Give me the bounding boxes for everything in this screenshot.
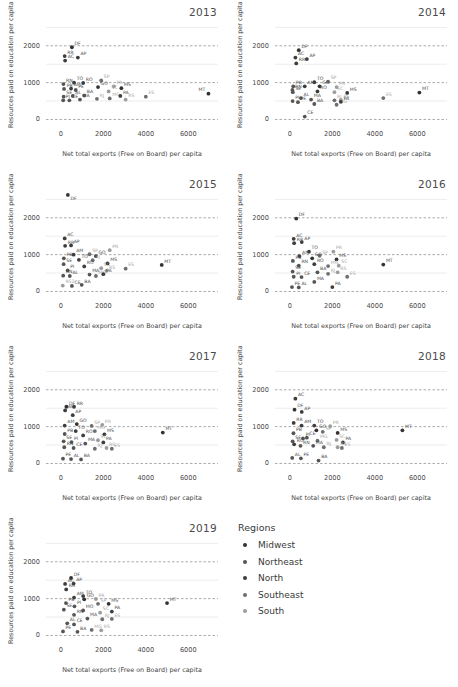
- data-point[interactable]: [99, 628, 103, 632]
- data-point[interactable]: [71, 413, 75, 417]
- data-point[interactable]: [96, 602, 100, 606]
- data-point[interactable]: [90, 628, 94, 632]
- data-point[interactable]: [321, 430, 325, 434]
- data-point[interactable]: [290, 285, 294, 289]
- data-point[interactable]: [68, 274, 72, 278]
- data-point[interactable]: [297, 286, 301, 290]
- data-point[interactable]: [291, 99, 295, 103]
- legend-item-south[interactable]: South: [236, 606, 416, 616]
- data-point[interactable]: [62, 445, 66, 449]
- data-point[interactable]: [80, 283, 84, 287]
- data-point[interactable]: [63, 237, 67, 241]
- data-point[interactable]: [303, 115, 307, 119]
- data-point[interactable]: [110, 610, 114, 614]
- data-point[interactable]: [292, 421, 296, 425]
- data-point[interactable]: [335, 438, 339, 442]
- data-point[interactable]: [63, 59, 67, 63]
- data-point[interactable]: [124, 98, 128, 102]
- data-point[interactable]: [74, 429, 78, 433]
- data-point[interactable]: [345, 275, 349, 279]
- data-point[interactable]: [417, 91, 421, 95]
- data-point[interactable]: [294, 217, 298, 221]
- data-point[interactable]: [291, 259, 295, 263]
- data-point[interactable]: [293, 408, 297, 412]
- data-point[interactable]: [401, 428, 405, 432]
- data-point[interactable]: [98, 611, 102, 615]
- data-point[interactable]: [292, 442, 296, 446]
- data-point[interactable]: [61, 274, 65, 278]
- data-point[interactable]: [118, 94, 122, 98]
- data-point[interactable]: [293, 56, 297, 60]
- data-point[interactable]: [72, 623, 76, 627]
- data-point[interactable]: [322, 445, 326, 449]
- data-point[interactable]: [100, 617, 104, 621]
- legend-item-northeast[interactable]: Northeast: [236, 557, 416, 567]
- data-point[interactable]: [335, 103, 339, 107]
- data-point[interactable]: [96, 85, 100, 89]
- data-point[interactable]: [300, 240, 304, 244]
- data-point[interactable]: [61, 457, 65, 461]
- data-point[interactable]: [336, 445, 340, 449]
- data-point[interactable]: [312, 424, 316, 428]
- data-point[interactable]: [165, 601, 169, 605]
- data-point[interactable]: [77, 258, 81, 262]
- data-point[interactable]: [300, 410, 304, 414]
- data-point[interactable]: [312, 102, 316, 106]
- data-point[interactable]: [381, 263, 385, 267]
- data-point[interactable]: [88, 252, 92, 256]
- data-point[interactable]: [291, 88, 295, 92]
- data-point[interactable]: [330, 285, 334, 289]
- data-point[interactable]: [82, 265, 86, 269]
- data-point[interactable]: [291, 270, 295, 274]
- data-point[interactable]: [81, 594, 85, 598]
- data-point[interactable]: [144, 95, 148, 99]
- data-point[interactable]: [61, 98, 65, 102]
- data-point[interactable]: [72, 446, 76, 450]
- data-point[interactable]: [62, 82, 66, 86]
- data-point[interactable]: [94, 597, 98, 601]
- data-point[interactable]: [93, 447, 97, 451]
- data-point[interactable]: [326, 264, 330, 268]
- data-point[interactable]: [62, 439, 66, 443]
- data-point[interactable]: [63, 582, 67, 586]
- data-point[interactable]: [63, 54, 67, 58]
- data-point[interactable]: [82, 597, 86, 601]
- data-point[interactable]: [299, 456, 303, 460]
- data-point[interactable]: [124, 267, 128, 271]
- data-point[interactable]: [317, 459, 321, 463]
- data-point[interactable]: [61, 630, 65, 634]
- data-point[interactable]: [62, 608, 66, 612]
- data-point[interactable]: [78, 98, 82, 102]
- data-point[interactable]: [311, 444, 315, 448]
- data-point[interactable]: [107, 90, 111, 94]
- data-point[interactable]: [96, 438, 100, 442]
- data-point[interactable]: [312, 262, 316, 266]
- data-point[interactable]: [69, 457, 73, 461]
- data-point[interactable]: [93, 429, 97, 433]
- data-point[interactable]: [303, 84, 307, 88]
- data-point[interactable]: [294, 62, 298, 66]
- data-point[interactable]: [339, 100, 343, 104]
- data-point[interactable]: [331, 250, 335, 254]
- data-point[interactable]: [312, 280, 316, 284]
- data-point[interactable]: [88, 273, 92, 277]
- data-point[interactable]: [69, 244, 73, 248]
- data-point[interactable]: [110, 447, 114, 451]
- data-point[interactable]: [62, 256, 66, 260]
- data-point[interactable]: [101, 272, 105, 276]
- data-point[interactable]: [61, 284, 65, 288]
- data-point[interactable]: [207, 92, 211, 96]
- data-point[interactable]: [108, 248, 112, 252]
- data-point[interactable]: [305, 436, 309, 440]
- data-point[interactable]: [292, 241, 296, 245]
- data-point[interactable]: [63, 424, 67, 428]
- data-point[interactable]: [76, 630, 80, 634]
- data-point[interactable]: [336, 270, 340, 274]
- data-point[interactable]: [160, 263, 164, 267]
- data-point[interactable]: [70, 45, 74, 49]
- data-point[interactable]: [292, 237, 296, 241]
- data-point[interactable]: [333, 98, 337, 102]
- data-point[interactable]: [63, 409, 67, 413]
- data-point[interactable]: [293, 397, 297, 401]
- data-point[interactable]: [326, 272, 330, 276]
